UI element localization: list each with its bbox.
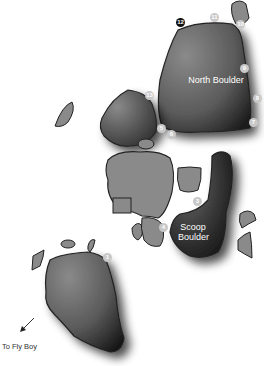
small-rock-leaf (55, 102, 73, 127)
route-marker-6[interactable]: 6 (167, 130, 176, 139)
route-marker-10[interactable]: 10 (236, 20, 245, 29)
small-rock-right-b (238, 232, 252, 258)
scoop-boulder-label-line1: Scoop (178, 222, 208, 232)
direction-note: To Fly Boy (2, 342, 37, 351)
route-marker-7[interactable]: 7 (249, 118, 258, 127)
small-rock-oval (138, 139, 154, 149)
small-rock-rect (177, 167, 201, 192)
small-rock-right-a (239, 211, 256, 228)
route-marker-13[interactable]: 13 (145, 91, 154, 100)
route-marker-3[interactable]: 3 (193, 197, 202, 206)
route-marker-8[interactable]: 8 (253, 94, 262, 103)
route-marker-12[interactable]: 12 (176, 18, 185, 27)
small-rock-b2 (88, 240, 95, 252)
small-rock-b1 (61, 240, 75, 248)
boulder-map (0, 0, 264, 366)
small-rock-slant (32, 250, 44, 270)
scoop-boulder-label-line2: Boulder (178, 232, 208, 242)
north-boulder-label: North Boulder (186, 75, 246, 85)
square-rock (113, 198, 131, 213)
route-marker-4[interactable]: 4 (159, 223, 168, 232)
route-marker-1[interactable]: 1 (103, 253, 112, 262)
slab-lower-lobe (141, 218, 163, 247)
southwest-boulder-shape (46, 252, 125, 352)
route-marker-5[interactable]: 5 (157, 124, 166, 133)
route-marker-11[interactable]: 11 (210, 13, 219, 22)
route-marker-9[interactable]: 9 (240, 64, 249, 73)
